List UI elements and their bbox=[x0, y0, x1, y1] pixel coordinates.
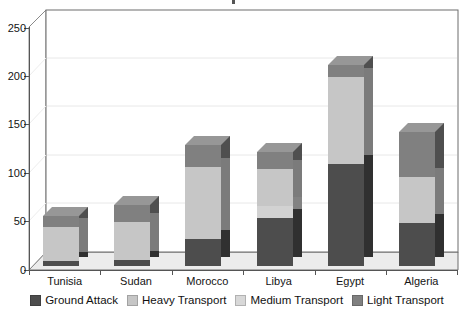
legend-swatch-icon bbox=[30, 295, 41, 306]
x-axis-label-sudan: Sudan bbox=[96, 275, 176, 287]
chart-legend: Ground AttackHeavy TransportMedium Trans… bbox=[0, 291, 474, 309]
legend-item-heavy-transport[interactable]: Heavy Transport bbox=[127, 294, 226, 306]
stacked-bar-chart: 250 200 150 100 50 0 TunisiaSudanMorocco… bbox=[0, 0, 474, 314]
legend-item-label: Light Transport bbox=[367, 294, 444, 306]
legend-item-label: Medium Transport bbox=[250, 294, 343, 306]
legend-swatch-icon bbox=[127, 295, 138, 306]
x-axis-label-libya: Libya bbox=[239, 275, 319, 287]
x-axis-label-morocco: Morocco bbox=[167, 275, 247, 287]
x-axis-label-algeria: Algeria bbox=[381, 275, 461, 287]
legend-item-label: Ground Attack bbox=[45, 294, 118, 306]
x-labels-layer: TunisiaSudanMoroccoLibyaEgyptAlgeria bbox=[0, 0, 474, 314]
legend-swatch-icon bbox=[235, 295, 246, 306]
x-axis-label-tunisia: Tunisia bbox=[25, 275, 105, 287]
legend-item-medium-transport[interactable]: Medium Transport bbox=[235, 294, 343, 306]
legend-swatch-icon bbox=[352, 295, 363, 306]
legend-item-label: Heavy Transport bbox=[142, 294, 226, 306]
x-axis-label-egypt: Egypt bbox=[310, 275, 390, 287]
legend-item-ground-attack[interactable]: Ground Attack bbox=[30, 294, 118, 306]
legend-item-light-transport[interactable]: Light Transport bbox=[352, 294, 444, 306]
